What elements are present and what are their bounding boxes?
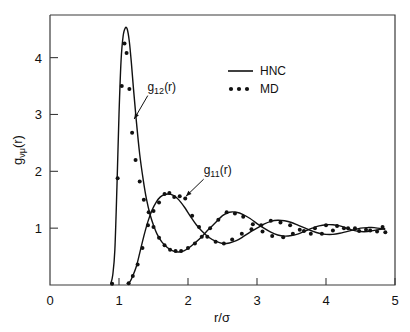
data-point	[375, 230, 379, 234]
data-point	[233, 211, 237, 215]
y-axis-ticks: 1234	[35, 51, 58, 237]
data-point	[364, 228, 368, 232]
data-markers	[110, 41, 387, 285]
curve-annotation-label: g12(r)	[147, 80, 176, 96]
data-point	[147, 210, 151, 214]
data-point	[383, 230, 387, 234]
data-point	[288, 223, 292, 227]
data-point	[131, 274, 135, 278]
data-point	[302, 229, 306, 233]
data-point	[269, 219, 273, 223]
data-point	[313, 226, 317, 230]
x-tick-label: 3	[253, 293, 260, 308]
data-point	[125, 51, 129, 55]
data-point	[138, 180, 142, 184]
data-point	[324, 223, 328, 227]
data-point	[123, 41, 127, 45]
data-point	[146, 223, 150, 227]
x-tick-label: 2	[184, 293, 191, 308]
data-point	[240, 232, 244, 236]
data-point	[251, 222, 255, 226]
data-point	[163, 192, 167, 196]
legend-dot-2	[237, 87, 241, 91]
figure-container: 012345 1234 r/σ gνμ(r) HNC MD g12(r)g11(…	[0, 0, 410, 332]
data-point	[309, 232, 313, 236]
data-point	[298, 228, 302, 232]
data-point	[259, 223, 263, 227]
data-point	[140, 246, 144, 250]
legend-label-hnc: HNC	[260, 64, 286, 78]
data-point	[157, 236, 161, 240]
data-point	[142, 198, 146, 202]
data-point	[261, 230, 265, 234]
curve-g12-r-hnc	[111, 27, 385, 284]
y-tick-label: 1	[35, 221, 42, 236]
data-point	[130, 131, 134, 135]
data-point	[163, 243, 167, 247]
data-point	[110, 282, 114, 286]
data-point	[205, 235, 209, 239]
curve-annotations: g12(r)g11(r)	[134, 80, 232, 197]
y-axis-title: gνμ(r)	[10, 135, 27, 165]
legend-dot-3	[245, 87, 249, 91]
data-point	[291, 232, 295, 236]
data-point	[190, 214, 194, 218]
data-point	[278, 220, 282, 224]
y-tick-label: 3	[35, 107, 42, 122]
data-point	[342, 226, 346, 230]
data-point	[230, 238, 234, 242]
legend-label-md: MD	[260, 82, 279, 96]
data-curves	[111, 27, 385, 284]
data-point	[208, 226, 212, 230]
data-point	[120, 84, 124, 88]
data-point	[186, 246, 190, 250]
data-point	[381, 225, 385, 229]
x-axis-title: r/σ	[214, 310, 230, 325]
data-point	[225, 210, 229, 214]
chart-svg: 012345 1234 r/σ gνμ(r) HNC MD g12(r)g11(…	[0, 0, 410, 332]
data-point	[357, 229, 361, 233]
data-point	[127, 87, 131, 91]
data-point	[331, 228, 335, 232]
data-point	[368, 228, 372, 232]
data-point	[200, 235, 204, 239]
x-tick-label: 4	[322, 293, 329, 308]
curve-g11-r-hnc	[127, 194, 384, 283]
y-tick-label: 4	[35, 51, 42, 66]
legend: HNC MD	[228, 64, 286, 96]
curve-annotation-label: g11(r)	[204, 163, 232, 179]
data-point	[214, 240, 218, 244]
data-point	[172, 195, 176, 199]
data-point	[157, 201, 161, 205]
data-point	[152, 225, 156, 229]
x-tick-label: 0	[46, 293, 53, 308]
data-point	[335, 224, 339, 228]
data-point	[136, 263, 140, 267]
data-point	[167, 191, 171, 195]
data-point	[178, 194, 182, 198]
x-axis-ticks: 012345	[46, 278, 398, 308]
data-point	[346, 226, 350, 230]
data-point	[193, 242, 197, 246]
data-point	[216, 218, 220, 222]
data-point	[152, 209, 156, 213]
data-point	[134, 158, 138, 162]
y-tick-label: 2	[35, 164, 42, 179]
data-point	[249, 227, 253, 231]
x-tick-label: 1	[115, 293, 122, 308]
data-point	[127, 281, 131, 285]
data-point	[174, 249, 178, 253]
data-point	[222, 242, 226, 246]
data-point	[197, 225, 201, 229]
legend-dot-1	[229, 87, 233, 91]
y-axis-title-group: gνμ(r)	[10, 135, 27, 165]
data-point	[183, 197, 187, 201]
data-point	[320, 232, 324, 236]
x-tick-label: 5	[391, 293, 398, 308]
data-point	[168, 248, 172, 252]
data-point	[241, 215, 245, 219]
data-point	[353, 226, 357, 230]
data-point	[179, 249, 183, 253]
data-point	[116, 176, 120, 180]
data-point	[270, 234, 274, 238]
